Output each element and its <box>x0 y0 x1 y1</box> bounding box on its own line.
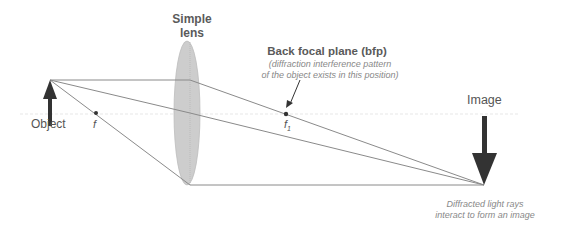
light-rays <box>50 80 484 185</box>
bfp-title: Back focal plane (bfp) <box>262 44 392 58</box>
optics-diagram <box>0 0 566 231</box>
lens-label: Simple lens <box>172 12 212 40</box>
bfp-pointer-arrow <box>286 80 300 108</box>
bfp-note-line1: (diffraction interference pattern <box>250 59 410 70</box>
simple-lens <box>174 41 200 185</box>
ray-central <box>50 80 484 185</box>
lens-label-line1: Simple <box>172 12 212 26</box>
image-arrow-icon <box>472 116 497 185</box>
back-focal-point <box>284 112 288 116</box>
front-focal-label: f <box>93 118 96 130</box>
image-note: Diffracted light rays interact to form a… <box>432 199 538 221</box>
object-label: Object <box>31 117 66 131</box>
image-note-line2: interact to form an image <box>432 210 538 221</box>
image-note-line1: Diffracted light rays <box>432 199 538 210</box>
image-label: Image <box>467 93 502 107</box>
front-focal-point <box>94 111 98 115</box>
back-focal-label: f1 <box>284 118 291 132</box>
lens-label-line2: lens <box>172 26 212 40</box>
back-focal-subscript: 1 <box>287 125 291 132</box>
bfp-note-line2: of the object exists in this position) <box>250 70 410 81</box>
bfp-note: (diffraction interference pattern of the… <box>250 59 410 81</box>
